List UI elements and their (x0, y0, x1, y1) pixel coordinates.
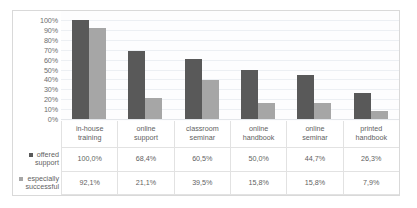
legend-item-offered-support: offered support (13, 147, 61, 171)
data-value: 60,5% (174, 147, 230, 171)
data-table: in-house training online support classro… (13, 121, 399, 195)
legend-swatch-icon (19, 177, 23, 181)
y-axis-tick: 100% (14, 17, 58, 24)
data-value: 26,3% (343, 147, 399, 171)
bars-layer (61, 20, 399, 119)
gridline-baseline (61, 119, 399, 120)
data-value: 21,1% (117, 171, 173, 195)
bar (241, 70, 258, 120)
data-value: 7,9% (343, 171, 399, 195)
bar (145, 98, 162, 119)
plot-region: 100% 90% 80% 70% 60% 50% 40% 30% 20% 10%… (13, 11, 399, 121)
y-axis-tick: 40% (14, 76, 58, 83)
bar-group (230, 20, 286, 119)
bar (297, 75, 314, 119)
bar (371, 111, 388, 119)
data-value: 15,8% (230, 171, 286, 195)
bar-group (61, 20, 117, 119)
y-axis-tick: 10% (14, 106, 58, 113)
data-value: 44,7% (286, 147, 342, 171)
bar (314, 103, 331, 119)
category-label: online seminar (286, 121, 342, 147)
table-corner-cell (13, 121, 61, 147)
y-axis-tick: 60% (14, 57, 58, 64)
y-axis-tick: 70% (14, 47, 58, 54)
y-axis-tick: 80% (14, 37, 58, 44)
y-axis-tick: 20% (14, 96, 58, 103)
bar-group (286, 20, 342, 119)
y-axis-tick: 30% (14, 86, 58, 93)
table-row-offered-support: offered support 100,0% 68,4% 60,5% 50,0%… (13, 147, 399, 171)
data-value: 68,4% (117, 147, 173, 171)
data-value: 92,1% (61, 171, 117, 195)
plot-area (61, 11, 399, 121)
category-label: printed handbook (343, 121, 399, 147)
bar (354, 93, 371, 119)
legend-swatch-icon (29, 153, 33, 157)
data-value: 100,0% (61, 147, 117, 171)
category-label: in-house training (61, 121, 117, 147)
category-label: online support (117, 121, 173, 147)
y-axis-tick: 50% (14, 67, 58, 74)
bar (89, 28, 106, 119)
table-row-categories: in-house training online support classro… (13, 121, 399, 147)
bar-group (343, 20, 399, 119)
bar-group (174, 20, 230, 119)
table-row-especially-successful: especially successful 92,1% 21,1% 39,5% … (13, 171, 399, 195)
bar (72, 20, 89, 119)
bar (258, 103, 275, 119)
data-value: 15,8% (286, 171, 342, 195)
data-value: 39,5% (174, 171, 230, 195)
category-label: classroom seminar (174, 121, 230, 147)
category-label: online handbook (230, 121, 286, 147)
data-value: 50,0% (230, 147, 286, 171)
bar (185, 59, 202, 119)
bar (202, 80, 219, 119)
chart-container: 100% 90% 80% 70% 60% 50% 40% 30% 20% 10%… (12, 10, 400, 196)
legend-item-especially-successful: especially successful (13, 171, 61, 195)
legend-label: offered support (35, 151, 59, 168)
y-axis-tick: 90% (14, 27, 58, 34)
bar-group (117, 20, 173, 119)
legend-label: especially successful (25, 175, 59, 192)
bar (128, 51, 145, 119)
y-axis: 100% 90% 80% 70% 60% 50% 40% 30% 20% 10%… (13, 11, 61, 121)
